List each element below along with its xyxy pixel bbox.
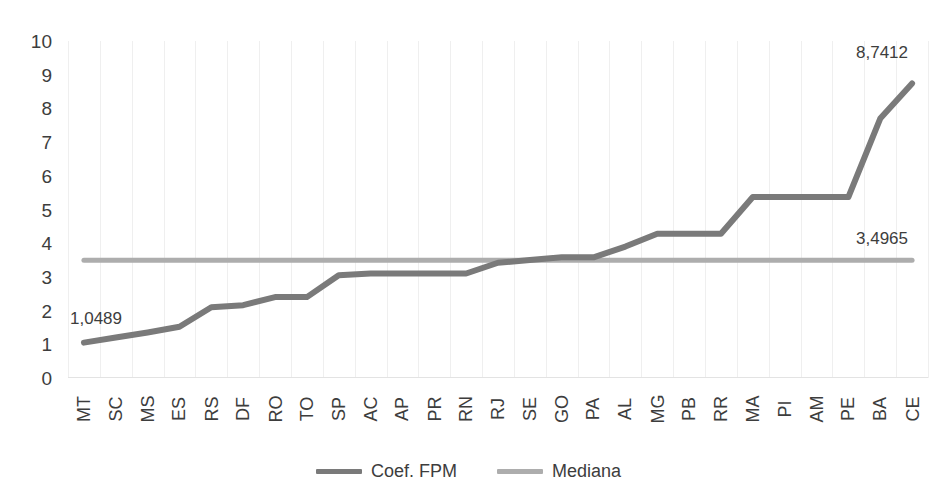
- y-axis-tick-1: 1: [41, 335, 52, 354]
- chart-legend: Coef. FPM Mediana: [0, 462, 937, 480]
- coef-fpm-line: [84, 83, 912, 342]
- legend-swatch-coef-fpm: [316, 469, 362, 474]
- series-lines: [68, 41, 928, 378]
- legend-item-mediana[interactable]: Mediana: [497, 462, 621, 480]
- y-axis-tick-9: 9: [41, 65, 52, 84]
- y-axis: 109876543210: [0, 0, 60, 503]
- y-axis-tick-0: 0: [41, 369, 52, 388]
- y-axis-tick-3: 3: [41, 267, 52, 286]
- x-axis: MTSCMSESRSDFROTOSPACAPPRRNRJSEGOPAALMGPB…: [68, 382, 928, 444]
- annotation-median-value: 3,4965: [856, 230, 908, 247]
- annotation-last-value: 8,7412: [856, 44, 908, 61]
- plot-area: [68, 41, 928, 378]
- y-axis-tick-6: 6: [41, 166, 52, 185]
- fpm-coefficient-line-chart: 109876543210 1,0489 8,7412 3,4965 MTSCMS…: [0, 0, 937, 503]
- y-axis-tick-10: 10: [31, 32, 52, 51]
- y-axis-tick-8: 8: [41, 99, 52, 118]
- y-axis-tick-2: 2: [41, 301, 52, 320]
- x-axis-tick-label: CE: [903, 396, 921, 421]
- legend-label-mediana: Mediana: [552, 462, 621, 480]
- gridline-vertical: [928, 41, 929, 378]
- y-axis-tick-4: 4: [41, 234, 52, 253]
- x-axis-tick-ce: CE: [881, 382, 937, 419]
- legend-item-coef-fpm[interactable]: Coef. FPM: [316, 462, 457, 480]
- y-axis-tick-5: 5: [41, 200, 52, 219]
- annotation-first-value: 1,0489: [70, 310, 122, 327]
- y-axis-tick-7: 7: [41, 133, 52, 152]
- legend-label-coef-fpm: Coef. FPM: [371, 462, 457, 480]
- legend-swatch-mediana: [497, 469, 543, 474]
